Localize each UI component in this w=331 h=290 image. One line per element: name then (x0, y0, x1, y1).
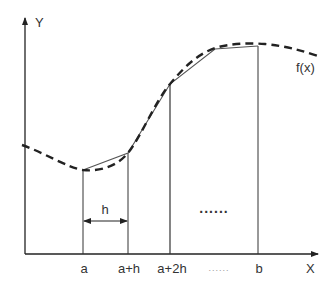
tick-label-ellipsis: ...... (208, 263, 229, 273)
tick-label-b: b (255, 261, 262, 276)
curve-label: f(x) (296, 60, 315, 75)
trapezoid-diagram: h ...... Y X f(x) a a+h a+2h ...... b (0, 0, 331, 290)
middle-ellipsis: ...... (199, 200, 228, 216)
tick-label-a: a (80, 261, 88, 276)
tick-label-a-plus-2h: a+2h (157, 261, 186, 276)
x-axis-label: X (306, 261, 315, 276)
tick-label-a-plus-h: a+h (118, 261, 140, 276)
h-label: h (101, 202, 108, 217)
y-axis-label: Y (35, 15, 44, 30)
